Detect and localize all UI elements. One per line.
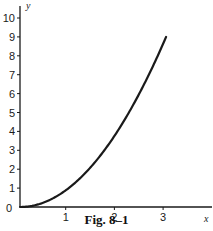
y-axis-label: y: [25, 0, 31, 11]
curve-line: [20, 37, 166, 207]
y-tick-label: 7: [9, 69, 15, 81]
y-tick-label: 3: [9, 144, 15, 156]
y-tick-label: 5: [9, 107, 15, 119]
y-tick-label: 8: [9, 50, 15, 62]
y-tick-label: 10: [3, 12, 15, 24]
chart: 12345678910123 y x 0: [0, 0, 213, 231]
y-tick-label: 1: [9, 182, 15, 194]
y-tick-label: 6: [9, 88, 15, 100]
y-tick-label: 2: [9, 163, 15, 175]
ticks: 12345678910123: [3, 12, 166, 223]
figure-caption: Fig. 8–1: [0, 212, 213, 228]
y-tick-label: 4: [9, 125, 15, 137]
axes: [20, 6, 212, 207]
y-tick-label: 9: [9, 31, 15, 43]
